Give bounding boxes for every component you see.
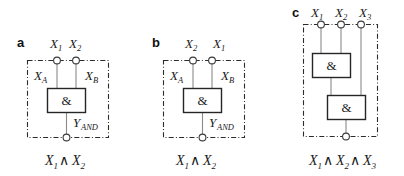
panel-b-internal-label-B: X B: [220, 68, 234, 85]
panel-b-input-label-1: X 2: [184, 36, 198, 53]
panel-b-letter: b: [152, 35, 160, 50]
panel-a-internal-label-A: X A: [33, 68, 48, 85]
panel-c-formula-term-1-name: X: [308, 153, 318, 168]
panel-a-letter: a: [17, 35, 25, 50]
panel-b: b X 2 X 1 X A X B &: [152, 35, 245, 171]
panel-c-input-label-1: X 1: [310, 5, 323, 22]
panel-c-formula-term-3-sub: 3: [371, 161, 377, 171]
panel-c-formula-operator-1: ∧: [323, 153, 333, 168]
panel-c-input-1-sub: 1: [319, 12, 323, 22]
panel-c-node-out: [343, 133, 350, 140]
panel-c-node-in-3: [358, 21, 365, 28]
panel-a-input-1-sub: 1: [58, 43, 62, 53]
panel-b-formula-term-1-name: X: [175, 153, 185, 168]
panel-a-node-in-1: [54, 57, 61, 64]
panel-b-node-in-2: [209, 57, 216, 64]
panel-a-XA-sub: A: [41, 75, 48, 85]
panel-a-formula-term-1-sub: 1: [54, 161, 59, 171]
panel-b-formula-term-2-sub: 2: [212, 161, 217, 171]
panel-a-formula-term-2-sub: 2: [81, 161, 86, 171]
panel-c-input-2-sub: 2: [343, 12, 348, 22]
panel-c-formula-term-2-name: X: [335, 153, 345, 168]
panel-b-gate-symbol: &: [197, 93, 207, 108]
panel-c-input-3-sub: 3: [366, 12, 371, 22]
panel-c-letter: c: [292, 5, 299, 20]
panel-c-formula-term-3-name: X: [362, 153, 372, 168]
panel-a-input-label-1: X 1: [49, 36, 62, 53]
panel-a-formula-term-1-name: X: [44, 153, 54, 168]
panel-a-node-out: [63, 134, 70, 141]
panel-b-XA-sub: A: [177, 75, 184, 85]
panel-b-formula: X 1 ∧ X 2: [175, 153, 217, 171]
panel-b-formula-operator: ∧: [190, 153, 200, 168]
panel-c-gate-1-symbol: &: [326, 58, 336, 73]
panel-a-input-2-sub: 2: [77, 43, 82, 53]
panel-a: a X 1 X 2 X A X B: [17, 35, 109, 171]
panel-b-formula-term-2-name: X: [202, 153, 212, 168]
panel-b-output-label: Y AND: [209, 115, 235, 132]
panel-c-formula-term-1-sub: 1: [318, 161, 323, 171]
panel-a-node-in-2: [73, 57, 80, 64]
panel-a-Y-sub: AND: [80, 122, 99, 132]
panel-b-node-in-1: [190, 57, 197, 64]
logic-gate-figure: a X 1 X 2 X A X B: [0, 0, 404, 176]
panel-a-output-label: Y AND: [73, 115, 99, 132]
panel-c-input-label-2: X 2: [334, 5, 348, 22]
panel-a-gate-symbol: &: [61, 93, 71, 108]
panel-a-formula-term-2-name: X: [71, 153, 81, 168]
panel-a-XB-sub: B: [93, 75, 98, 85]
panel-b-XB-sub: B: [229, 75, 234, 85]
panel-a-formula: X 1 ∧ X 2: [44, 153, 86, 171]
panel-b-node-out: [199, 134, 206, 141]
panel-b-input-2-sub: 1: [221, 43, 225, 53]
panel-c-node-in-2: [338, 21, 345, 28]
panel-c-node-in-1: [318, 21, 325, 28]
panel-b-input-label-2: X 1: [212, 36, 225, 53]
panel-a-formula-operator: ∧: [59, 153, 69, 168]
panel-b-Y-sub: AND: [216, 122, 235, 132]
panel-a-input-label-2: X 2: [68, 36, 82, 53]
panel-b-input-1-sub: 2: [193, 43, 198, 53]
figure-svg: a X 1 X 2 X A X B: [0, 0, 404, 176]
panel-a-internal-label-B: X B: [84, 68, 98, 85]
panel-c-gate-2-symbol: &: [341, 100, 351, 115]
panel-c-formula: X 1 ∧ X 2 ∧ X 3: [308, 153, 377, 171]
panel-c: c X 1 X 2 X 3 & &: [292, 5, 378, 171]
panel-b-internal-label-A: X A: [169, 68, 184, 85]
panel-c-formula-operator-2: ∧: [350, 153, 360, 168]
panel-b-formula-term-1-sub: 1: [185, 161, 190, 171]
panel-c-input-label-3: X 3: [358, 5, 371, 22]
